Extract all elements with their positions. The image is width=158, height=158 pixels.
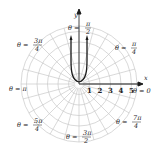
svg-text:4: 4 xyxy=(119,86,124,95)
svg-text:5π: 5π xyxy=(34,117,43,125)
angle-label-pi: θ = π xyxy=(9,85,27,93)
svg-text:2: 2 xyxy=(83,137,88,145)
polar-diagram: 1 2 3 4 5 x y θ = 0 θ = π 2 θ = π 4 θ = … xyxy=(0,0,158,158)
svg-text:3π: 3π xyxy=(34,37,43,45)
svg-text:4: 4 xyxy=(133,122,138,130)
angle-label-pi2: θ = π 2 xyxy=(68,20,91,36)
angle-label-5pi4: θ = 5π 4 xyxy=(17,117,43,133)
svg-text:7π: 7π xyxy=(133,114,142,122)
svg-text:3: 3 xyxy=(108,86,113,95)
angle-label-pi4: θ = π 4 xyxy=(115,40,137,56)
svg-text:θ =: θ = xyxy=(116,118,127,126)
angle-label-3pi4: θ = 3π 4 xyxy=(17,37,43,53)
svg-text:θ = 0: θ = 0 xyxy=(133,87,151,95)
angle-label-0: θ = 0 xyxy=(133,87,151,95)
svg-text:θ =: θ = xyxy=(17,41,28,49)
svg-text:2: 2 xyxy=(98,86,103,95)
svg-text:4: 4 xyxy=(131,48,136,56)
svg-text:π: π xyxy=(85,20,91,28)
svg-text:θ =: θ = xyxy=(115,44,126,52)
svg-text:θ =: θ = xyxy=(66,133,77,141)
radial-ticks: 1 2 3 4 5 xyxy=(87,86,134,95)
svg-text:θ =: θ = xyxy=(17,121,28,129)
svg-text:θ =: θ = xyxy=(68,24,79,32)
svg-text:π: π xyxy=(131,40,137,48)
y-axis-label: y xyxy=(73,11,78,19)
x-axis-label: x xyxy=(144,74,148,82)
svg-text:4: 4 xyxy=(34,125,39,133)
svg-text:4: 4 xyxy=(34,45,39,53)
svg-text:3π: 3π xyxy=(83,129,92,137)
svg-text:1: 1 xyxy=(87,86,92,95)
svg-text:θ = π: θ = π xyxy=(9,85,27,93)
svg-text:2: 2 xyxy=(85,28,90,36)
